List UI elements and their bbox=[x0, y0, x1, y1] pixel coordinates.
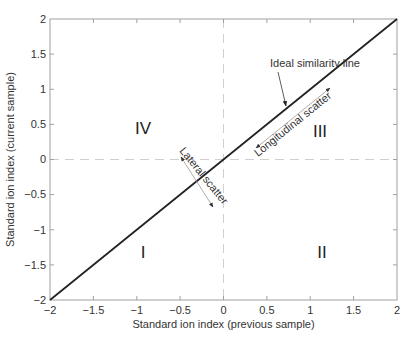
svg-text:0: 0 bbox=[220, 304, 226, 316]
ideal-line-arrow bbox=[278, 72, 286, 106]
svg-text:0.5: 0.5 bbox=[259, 304, 274, 316]
quadrant-label-iv: IV bbox=[135, 119, 152, 138]
x-axis-label: Standard ion index (previous sample) bbox=[132, 318, 314, 330]
svg-text:2: 2 bbox=[394, 304, 400, 316]
svg-text:1.5: 1.5 bbox=[346, 304, 361, 316]
lateral-label: Lateral scatter bbox=[178, 145, 231, 207]
svg-text:0.5: 0.5 bbox=[31, 118, 46, 130]
y-axis-label: Standard ion index (current sample) bbox=[4, 72, 16, 247]
svg-text:1: 1 bbox=[307, 304, 313, 316]
svg-text:2: 2 bbox=[40, 13, 46, 25]
scatter-diagram: −2 −1.5 −1 −0.5 0 0.5 1 1.5 2 2 1.5 1 0.… bbox=[0, 0, 413, 344]
quadrant-label-i: I bbox=[141, 243, 146, 262]
svg-text:−0.5: −0.5 bbox=[24, 188, 46, 200]
svg-text:−1.5: −1.5 bbox=[83, 304, 105, 316]
svg-text:−1.5: −1.5 bbox=[24, 259, 46, 271]
quadrant-label-iii: III bbox=[313, 122, 327, 141]
svg-text:1: 1 bbox=[40, 83, 46, 95]
svg-text:−2: −2 bbox=[33, 294, 46, 306]
svg-text:0: 0 bbox=[40, 153, 46, 165]
x-tick-labels: −2 −1.5 −1 −0.5 0 0.5 1 1.5 2 bbox=[44, 304, 400, 316]
y-tick-labels: 2 1.5 1 0.5 0 −0.5 −1 −1.5 −2 bbox=[24, 13, 46, 306]
svg-text:1.5: 1.5 bbox=[31, 48, 46, 60]
ideal-line-label: Ideal similarity line bbox=[270, 57, 360, 69]
svg-text:−0.5: −0.5 bbox=[169, 304, 191, 316]
svg-text:−1: −1 bbox=[131, 304, 144, 316]
quadrant-label-ii: II bbox=[317, 243, 326, 262]
svg-text:−1: −1 bbox=[33, 224, 46, 236]
